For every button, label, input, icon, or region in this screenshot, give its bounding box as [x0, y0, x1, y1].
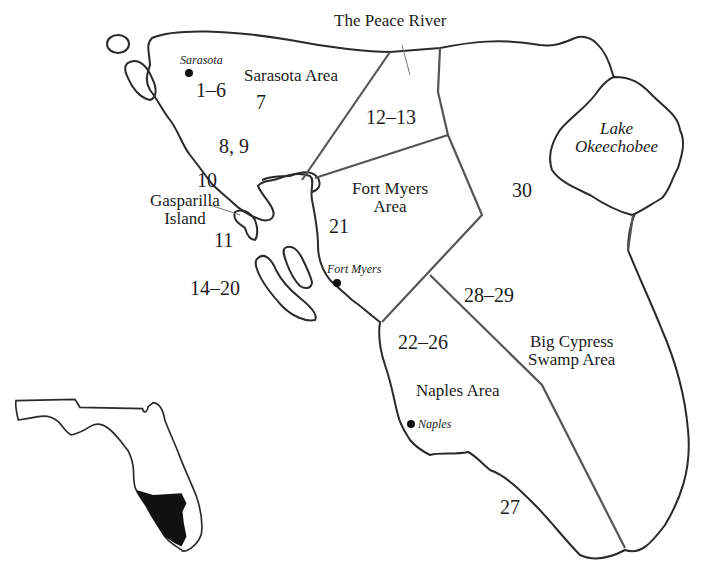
number-21: 21 [329, 216, 349, 236]
gasparilla-island-label: Gasparilla Island [150, 192, 220, 228]
city-label-sarasota: Sarasota [180, 54, 223, 66]
gasparilla-line2: Island [150, 210, 220, 228]
number-7: 7 [256, 92, 266, 112]
region-label-fort-myers-area: Fort Myers Area [352, 180, 428, 216]
naples-dot [407, 420, 415, 428]
number-12-13: 12–13 [366, 107, 416, 127]
city-label-naples: Naples [418, 418, 451, 430]
fort-myers-area-line2: Area [352, 198, 428, 216]
island-north-1 [107, 35, 129, 53]
island-sanibel-north [284, 247, 312, 288]
number-8-9: 8, 9 [219, 136, 249, 156]
island-north-2 [125, 61, 155, 100]
number-10: 10 [197, 170, 217, 190]
big-cypress-line2: Swamp Area [528, 351, 615, 369]
number-14-20: 14–20 [190, 278, 240, 298]
number-11: 11 [214, 230, 233, 250]
number-22-26: 22–26 [398, 332, 448, 352]
number-28-29: 28–29 [464, 285, 514, 305]
city-label-fort-myers: Fort Myers [327, 263, 381, 275]
region-map [0, 0, 701, 576]
lake-okeechobee-label: Lake Okeechobee [575, 120, 658, 156]
lake-line1: Lake [575, 120, 658, 138]
big-cypress-line1: Big Cypress [528, 333, 615, 351]
sarasota-dot [185, 69, 193, 77]
fort-myers-dot [333, 279, 341, 287]
number-27: 27 [500, 497, 520, 517]
number-30: 30 [512, 180, 532, 200]
florida-inset-map [16, 399, 202, 551]
region-label-naples-area: Naples Area [416, 382, 500, 399]
region-label-sarasota-area: Sarasota Area [244, 67, 338, 84]
gasparilla-island-shape [234, 210, 257, 240]
lake-line2: Okeechobee [575, 138, 658, 156]
region-label-peace-river: The Peace River [334, 12, 446, 29]
number-1-6: 1–6 [196, 80, 226, 100]
region-label-big-cypress: Big Cypress Swamp Area [528, 333, 615, 369]
gasparilla-line1: Gasparilla [150, 192, 220, 210]
fort-myers-area-line1: Fort Myers [352, 180, 428, 198]
